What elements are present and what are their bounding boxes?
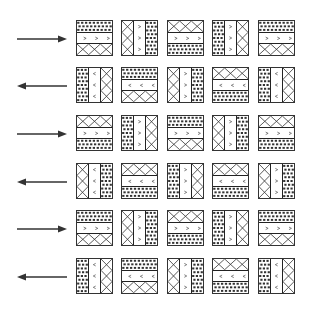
- dots-band: [122, 116, 133, 150]
- arrow-right-icon: [17, 34, 67, 44]
- pattern-tile: [167, 115, 204, 151]
- pattern-tile: [76, 115, 113, 151]
- pattern-tile: [121, 115, 158, 151]
- dots-band: [77, 211, 112, 222]
- cross-band: [259, 116, 294, 127]
- cross-band: [168, 68, 179, 102]
- dots-band: [259, 138, 294, 150]
- dots-band: [259, 259, 270, 293]
- chevron-left-band: [213, 175, 248, 187]
- cross-band: [168, 211, 203, 222]
- cross-band: [168, 138, 203, 150]
- chevron-right-band: [179, 259, 191, 293]
- dots-band: [213, 186, 248, 198]
- pattern-tile: [258, 258, 295, 294]
- cross-band: [122, 90, 157, 102]
- dots-band: [168, 43, 203, 55]
- chevron-right-band: [168, 32, 203, 44]
- chevron-right-band: [224, 116, 236, 150]
- chevron-right-band: [259, 127, 294, 139]
- chevron-right-band: [179, 68, 191, 102]
- pattern-tile: [258, 163, 295, 199]
- arrow-left-icon: [17, 272, 67, 282]
- pattern-tile: [167, 210, 204, 246]
- dots-band: [122, 68, 157, 79]
- cross-band: [122, 211, 133, 245]
- chevron-right-band: [259, 32, 294, 44]
- chevron-right-band: [77, 222, 112, 234]
- chevron-left-band: [88, 164, 100, 198]
- cross-band: [168, 259, 179, 293]
- cross-band: [100, 68, 112, 102]
- cross-band: [100, 259, 112, 293]
- arrow-left-icon: [17, 177, 67, 187]
- dots-band: [191, 68, 203, 102]
- cross-band: [236, 21, 248, 55]
- cross-band: [191, 164, 203, 198]
- dots-band: [77, 259, 88, 293]
- chevron-right-band: [224, 21, 236, 55]
- dots-band: [168, 116, 203, 127]
- dots-band: [213, 281, 248, 293]
- cross-band: [213, 116, 224, 150]
- cross-band: [259, 164, 270, 198]
- cross-band: [77, 233, 112, 245]
- dots-band: [259, 68, 270, 102]
- dots-band: [168, 164, 179, 198]
- dots-band: [213, 90, 248, 102]
- dots-band: [259, 21, 294, 32]
- chevron-right-band: [77, 32, 112, 44]
- chevron-right-band: [270, 164, 282, 198]
- chevron-right-band: [133, 211, 145, 245]
- chevron-right-band: [224, 211, 236, 245]
- pattern-tile: [167, 258, 204, 294]
- pattern-tile: [76, 20, 113, 56]
- cross-band: [213, 68, 248, 79]
- dots-band: [77, 68, 88, 102]
- dots-band: [145, 21, 157, 55]
- dots-band: [100, 164, 112, 198]
- dots-band: [259, 211, 294, 222]
- pattern-tile: [258, 67, 295, 103]
- chevron-right-band: [133, 21, 145, 55]
- dots-band: [213, 211, 224, 245]
- cross-band: [168, 21, 203, 32]
- pattern-tile: [167, 67, 204, 103]
- pattern-tile: [258, 20, 295, 56]
- dots-band: [145, 211, 157, 245]
- chevron-left-band: [213, 270, 248, 282]
- dots-band: [213, 21, 224, 55]
- pattern-tile: [258, 210, 295, 246]
- chevron-left-band: [88, 68, 100, 102]
- chevron-right-band: [179, 164, 191, 198]
- cross-band: [77, 116, 112, 127]
- dots-band: [236, 116, 248, 150]
- chevron-left-band: [270, 259, 282, 293]
- pattern-tile: [212, 67, 249, 103]
- chevron-left-band: [270, 68, 282, 102]
- cross-band: [145, 116, 157, 150]
- dots-band: [77, 21, 112, 32]
- chevron-right-band: [168, 127, 203, 139]
- chevron-left-band: [122, 270, 157, 282]
- chevron-right-band: [133, 116, 145, 150]
- pattern-tile: [121, 210, 158, 246]
- pattern-tile: [76, 67, 113, 103]
- cross-band: [236, 211, 248, 245]
- cross-band: [213, 164, 248, 175]
- pattern-tile: [258, 115, 295, 151]
- dots-band: [77, 138, 112, 150]
- pattern-tile: [212, 115, 249, 151]
- dots-band: [191, 259, 203, 293]
- cross-band: [282, 259, 294, 293]
- pattern-tile: [212, 210, 249, 246]
- dots-band: [282, 164, 294, 198]
- pattern-tile: [76, 163, 113, 199]
- cross-band: [213, 259, 248, 270]
- arrow-left-icon: [17, 81, 67, 91]
- pattern-tile: [121, 258, 158, 294]
- chevron-left-band: [213, 79, 248, 91]
- pattern-tile: [76, 210, 113, 246]
- cross-band: [122, 164, 157, 175]
- cross-band: [259, 233, 294, 245]
